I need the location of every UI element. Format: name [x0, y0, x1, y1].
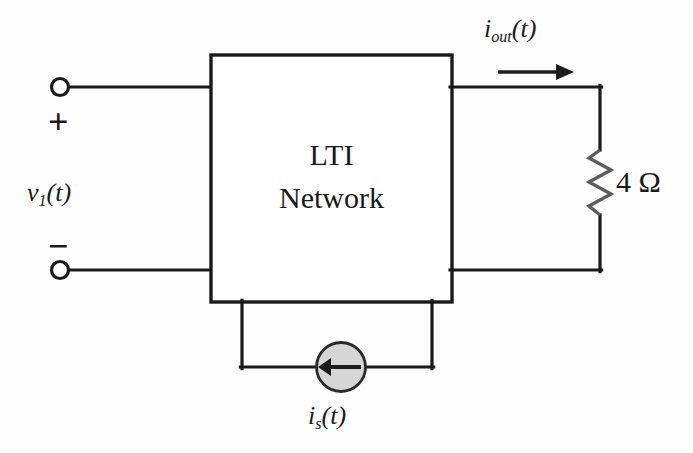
output-arrow-head — [556, 64, 574, 80]
source-current-argument: (t) — [322, 401, 347, 430]
polarity-minus-label: − — [48, 228, 69, 264]
wire-group-left-port — [68, 87, 213, 270]
lti-block-label-line2: Network — [211, 183, 452, 213]
output-current-argument: (t) — [512, 14, 537, 43]
circle-current-source-icon — [317, 343, 366, 392]
output-current-label: iout(t) — [484, 16, 536, 45]
circuit-diagram-canvas: LTI Network + − v1(t) iout(t) is(t) 4 Ω — [0, 0, 693, 453]
input-voltage-symbol: v — [27, 178, 39, 207]
resistor-value-label: 4 Ω — [616, 167, 661, 197]
zigzag-resistor-icon — [589, 150, 611, 215]
source-current-label: is(t) — [308, 403, 346, 432]
output-current-subscript: out — [491, 28, 512, 45]
polarity-plus-label: + — [48, 104, 69, 140]
circuit-schematic-svg — [0, 0, 693, 453]
input-voltage-label: v1(t) — [27, 180, 71, 209]
arrow-right-icon — [498, 64, 574, 80]
terminal-top-icon — [52, 79, 69, 96]
lti-network-block — [211, 55, 452, 302]
wire-group-output-loop — [450, 85, 602, 271]
lti-block-label-line1: LTI — [211, 140, 452, 170]
input-voltage-subscript: 1 — [39, 192, 47, 209]
input-voltage-argument: (t) — [47, 178, 72, 207]
